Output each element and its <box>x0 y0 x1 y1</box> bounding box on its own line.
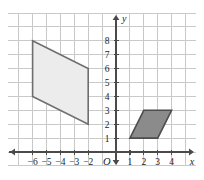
x-axis-arrow-right <box>189 149 194 156</box>
y-axis-label: y <box>121 13 127 24</box>
x-tick-label: 1 <box>128 157 133 167</box>
coordinate-plane-figure: −6−5−4−3−2123412345678Oxy <box>0 0 204 180</box>
y-tick-label: 1 <box>105 134 110 144</box>
y-tick-label: 5 <box>105 78 110 88</box>
coordinate-plane-svg: −6−5−4−3−2123412345678Oxy <box>0 0 204 180</box>
y-tick-label: 7 <box>105 50 110 60</box>
x-tick-label: −4 <box>55 157 65 167</box>
y-tick-label: 4 <box>105 92 110 102</box>
x-tick-label: −3 <box>69 157 79 167</box>
y-tick-label: 3 <box>105 106 110 116</box>
y-tick-label: 2 <box>105 120 110 130</box>
origin-label: O <box>103 156 111 167</box>
x-tick-label: 4 <box>169 157 174 167</box>
y-tick-label: 8 <box>105 36 110 46</box>
y-axis-arrow-up <box>113 15 120 20</box>
x-tick-label: −2 <box>83 157 93 167</box>
x-tick-label: 2 <box>141 157 146 167</box>
x-tick-label: −5 <box>41 157 51 167</box>
x-tick-label: −6 <box>28 157 38 167</box>
x-axis-arrow-left <box>10 149 15 156</box>
x-tick-label: 3 <box>155 157 160 167</box>
y-tick-label: 6 <box>105 64 110 74</box>
y-axis-arrow-down <box>113 160 120 165</box>
small-parallelogram <box>130 110 172 138</box>
x-axis-label: x <box>189 156 195 167</box>
